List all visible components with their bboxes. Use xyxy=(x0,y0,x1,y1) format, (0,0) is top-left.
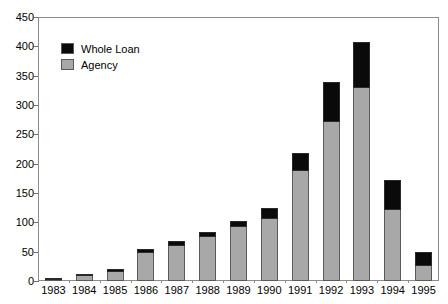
x-axis-tick-label: 1993 xyxy=(346,284,377,297)
bar-segment-whole-loan xyxy=(261,208,278,219)
bar-group xyxy=(415,252,432,281)
bar-segment-agency xyxy=(353,87,370,281)
x-axis-tick-mark xyxy=(69,280,70,283)
x-axis-tick-label: 1988 xyxy=(192,284,223,297)
bar-group xyxy=(137,249,154,281)
x-axis-tick-label: 1995 xyxy=(408,284,439,297)
bar-group xyxy=(168,241,185,281)
bar-segment-whole-loan xyxy=(323,82,340,123)
x-axis-tick-label: 1994 xyxy=(377,284,408,297)
bar-segment-whole-loan xyxy=(137,249,154,252)
bar-segment-agency xyxy=(137,252,154,281)
bar-segment-agency xyxy=(292,170,309,281)
bar-segment-whole-loan xyxy=(415,252,432,265)
x-axis-tick-label: 1991 xyxy=(285,284,316,297)
legend-item-label: Agency xyxy=(81,59,118,71)
bar-segment-whole-loan xyxy=(107,269,124,272)
x-axis-tick-mark xyxy=(100,280,101,283)
bar-group xyxy=(292,153,309,281)
legend-item: Agency xyxy=(61,57,181,72)
bar-segment-whole-loan xyxy=(353,42,370,88)
legend-item: Whole Loan xyxy=(61,41,181,56)
x-axis-tick-label: 1990 xyxy=(254,284,285,297)
y-axis-labels: 450400350300250200150100500 xyxy=(0,17,34,281)
y-axis-tick-label: 100 xyxy=(0,217,34,228)
y-axis-tick-label: 0 xyxy=(0,276,34,287)
chart-legend: Whole LoanAgency xyxy=(61,41,181,73)
x-axis-tick-mark xyxy=(377,280,378,283)
x-axis-tick-label: 1992 xyxy=(316,284,347,297)
y-axis-tick-label: 350 xyxy=(0,71,34,82)
x-axis-tick-mark xyxy=(192,280,193,283)
x-axis-tick-mark xyxy=(223,280,224,283)
bar-segment-agency xyxy=(199,236,216,281)
x-axis-tick-label: 1985 xyxy=(100,284,131,297)
y-axis-tick-label: 50 xyxy=(0,247,34,258)
bar-group xyxy=(261,208,278,281)
x-axis-labels: 1983198419851986198719881989199019911992… xyxy=(38,284,439,304)
bar-group xyxy=(353,42,370,281)
x-axis-tick-mark xyxy=(254,280,255,283)
y-axis-tick-label: 150 xyxy=(0,188,34,199)
y-axis-tick-label: 250 xyxy=(0,129,34,140)
bar-group xyxy=(230,221,247,281)
bar-segment-agency xyxy=(384,209,401,281)
y-axis-tick-label: 300 xyxy=(0,100,34,111)
y-axis-tick-label: 450 xyxy=(0,12,34,23)
bar-segment-agency xyxy=(168,245,185,281)
bar-segment-whole-loan xyxy=(76,274,93,276)
x-axis-tick-label: 1986 xyxy=(131,284,162,297)
x-axis-tick-label: 1983 xyxy=(38,284,69,297)
bar-group xyxy=(199,232,216,281)
bar-group xyxy=(384,180,401,281)
x-axis-tick-mark xyxy=(161,280,162,283)
x-axis-tick-label: 1987 xyxy=(161,284,192,297)
x-axis-tick-mark xyxy=(408,280,409,283)
legend-item-label: Whole Loan xyxy=(81,43,140,55)
x-axis-tick-mark xyxy=(131,280,132,283)
bar-group xyxy=(323,82,340,281)
bar-segment-agency xyxy=(323,121,340,281)
bar-segment-whole-loan xyxy=(168,241,185,246)
x-axis-tick-mark xyxy=(346,280,347,283)
bar-segment-agency xyxy=(230,226,247,281)
bar-segment-agency xyxy=(261,218,278,281)
bar-segment-whole-loan xyxy=(384,180,401,210)
legend-swatch-icon xyxy=(61,59,74,70)
bar-chart: 450400350300250200150100500 198319841985… xyxy=(0,0,448,304)
x-axis-tick-mark xyxy=(316,280,317,283)
y-axis-tick-label: 200 xyxy=(0,159,34,170)
bar-segment-agency xyxy=(415,265,432,281)
x-axis-tick-mark xyxy=(285,280,286,283)
legend-swatch-icon xyxy=(61,43,74,54)
bar-segment-whole-loan xyxy=(292,153,309,170)
x-axis-tick-label: 1984 xyxy=(69,284,100,297)
x-axis-tick-label: 1989 xyxy=(223,284,254,297)
bar-segment-whole-loan xyxy=(230,221,247,227)
y-axis-tick-label: 400 xyxy=(0,41,34,52)
bar-segment-whole-loan xyxy=(199,232,216,237)
